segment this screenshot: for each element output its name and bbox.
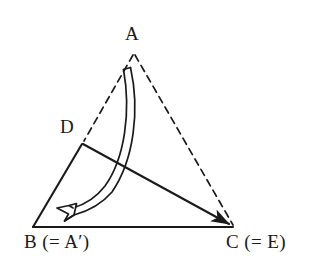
vertex-label-b: B (= A′) (24, 232, 90, 251)
segment-d-c (83, 144, 229, 224)
rotation-arrow (57, 68, 135, 222)
vertex-label-a: A (125, 24, 139, 43)
vertex-label-d: D (60, 117, 74, 136)
vertex-label-c: C (= E) (226, 232, 286, 251)
geometry-diagram: A D B (= A′) C (= E) (0, 0, 318, 271)
